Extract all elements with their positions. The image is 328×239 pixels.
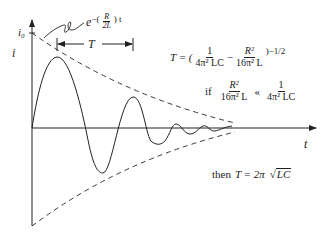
envelope-exp-open: −( [91, 14, 99, 24]
damped-current-waveform [32, 57, 232, 173]
x-axis-label: t [304, 138, 307, 150]
envelope-label-leader [44, 22, 84, 38]
result-equation: then T = 2π √LC [212, 168, 291, 180]
damped-oscillation-diagram [0, 0, 328, 239]
result-prefix: then [212, 169, 231, 180]
envelope-exp-den: 2L [101, 22, 111, 30]
condition-lhs-den: 16π² L [220, 92, 249, 103]
period-eq-exponent: )−1/2 [266, 47, 286, 56]
envelope-label: e−(R2L) t [86, 13, 122, 31]
envelope-exp-close: ) t [114, 14, 122, 24]
condition-equation: if R²16π² L « 14π² LC [205, 80, 298, 102]
period-label: T [88, 38, 95, 50]
condition-rhs-num: 1 [278, 80, 285, 92]
result-radicand: LC [276, 168, 291, 180]
result-lhs: T = 2π [235, 169, 265, 180]
y-initial-label: i₀ [18, 27, 25, 38]
period-eq-lhs: T = ( [170, 52, 193, 63]
condition-lhs-num: R² [229, 80, 240, 92]
condition-relation: « [254, 86, 260, 97]
condition-rhs-den: 4π² LC [266, 92, 296, 103]
period-eq-term2-den: 16π² L [235, 58, 264, 69]
period-eq-term2-num: R² [244, 46, 255, 58]
y-axis-label: i [12, 47, 15, 59]
period-eq-term1-den: 4π² LC [195, 58, 225, 69]
period-equation: T = ( 14π² LC − R²16π² L )−1/2 [170, 46, 285, 68]
period-eq-term1-num: 1 [206, 46, 213, 58]
period-eq-minus: − [227, 52, 233, 63]
condition-if: if [205, 86, 212, 97]
lower-envelope [32, 132, 235, 226]
